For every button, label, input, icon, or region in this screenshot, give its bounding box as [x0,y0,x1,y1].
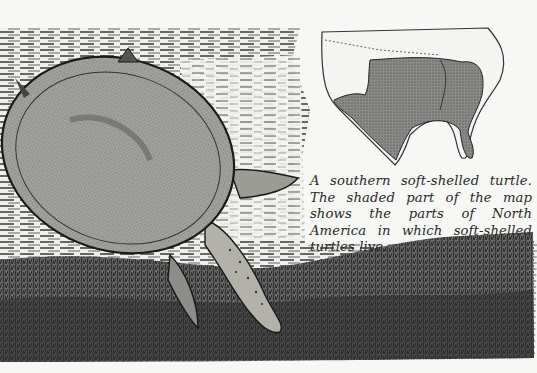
north-america-map [322,28,504,165]
book-page: A southern soft-shelled turtle. The shad… [0,0,537,373]
figure-caption: A southern soft-shelled turtle. The shad… [310,173,532,256]
